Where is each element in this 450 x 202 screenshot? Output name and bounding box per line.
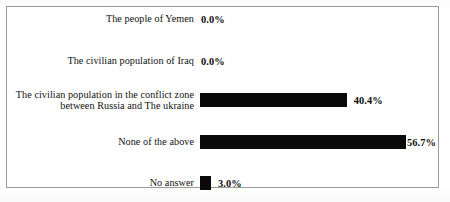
- category-label: None of the above: [0, 136, 200, 147]
- bar-value-label: 3.0%: [218, 178, 242, 189]
- table-row: The civilian population in the conflict …: [0, 87, 450, 113]
- category-label: The civilian population in the conflict …: [0, 89, 200, 112]
- bar-chart-figure: The people of Yemen 0.0% The civilian po…: [0, 0, 450, 202]
- table-row: The civilian population of Iraq 0.0%: [0, 50, 450, 72]
- bar-value-label: 0.0%: [201, 56, 225, 67]
- bar-value-label: 56.7%: [407, 137, 436, 148]
- category-label: The civilian population of Iraq: [0, 55, 200, 66]
- bar-track: 0.0%: [200, 50, 450, 72]
- bar-track: 3.0%: [200, 172, 450, 194]
- bar: [200, 176, 211, 190]
- table-row: None of the above 56.7%: [0, 131, 450, 153]
- table-row: No answer 3.0%: [0, 172, 450, 194]
- table-row: The people of Yemen 0.0%: [0, 8, 450, 30]
- bar-track: 0.0%: [200, 8, 450, 30]
- bar: [200, 93, 347, 107]
- category-label: No answer: [0, 177, 200, 188]
- bar: [200, 135, 406, 149]
- bar-track: 40.4%: [200, 87, 450, 113]
- bar-track: 56.7%: [200, 131, 450, 153]
- category-label: The people of Yemen: [0, 13, 200, 24]
- bar-value-label: 40.4%: [354, 95, 383, 106]
- bar-value-label: 0.0%: [201, 14, 225, 25]
